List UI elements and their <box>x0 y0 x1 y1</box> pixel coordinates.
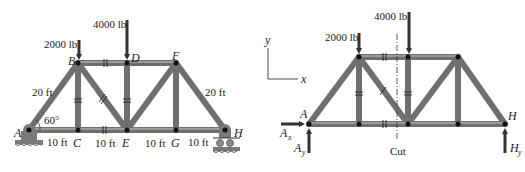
load-label-D: 4000 lb <box>93 18 127 30</box>
joint-label-C: C <box>73 136 82 150</box>
joint-label-D: D <box>130 51 140 65</box>
angle-label: 60° <box>44 114 59 126</box>
dim-GH: 10 ft <box>188 136 208 148</box>
coordinate-axes: y x <box>264 33 307 86</box>
load-label-B-fbd: 2000 lb <box>325 31 359 43</box>
member-EF <box>127 63 176 130</box>
dim-EG: 10 ft <box>145 137 165 149</box>
svg-text:A: A <box>293 141 302 155</box>
svg-text:A: A <box>279 126 288 140</box>
svg-text:y: y <box>301 148 306 157</box>
left-truss-figure: 2000 lb 4000 lb A B C D E F G H 20 ft 20… <box>13 18 244 153</box>
reaction-label-Ay: A y <box>293 141 306 157</box>
right-truss-members <box>309 56 505 124</box>
member-BE <box>78 63 127 130</box>
joint-label-H-fbd: H <box>507 109 518 123</box>
joint-label-B: B <box>68 54 76 68</box>
truss-diagram: 2000 lb 4000 lb A B C D E F G H 20 ft 20… <box>0 0 525 172</box>
joint-label-F: F <box>171 49 180 63</box>
reaction-label-Hy: H y <box>509 141 522 157</box>
dim-AC: 10 ft <box>47 136 67 148</box>
dim-AB: 20 ft <box>32 86 52 98</box>
joint-label-G: G <box>171 136 180 150</box>
load-label-B: 2000 lb <box>44 38 78 50</box>
load-label-D-fbd: 4000 lb <box>374 10 408 22</box>
joint-label-H: H <box>233 126 244 140</box>
dim-CE: 10 ft <box>95 137 115 149</box>
joint-label-E: E <box>121 136 130 150</box>
joint-label-A: A <box>13 126 22 140</box>
right-truss-figure: y x <box>264 10 522 157</box>
reaction-label-Ax: A x <box>279 126 292 142</box>
joint-label-A-fbd: A <box>299 107 308 121</box>
svg-text:x: x <box>287 133 292 142</box>
cut-label: Cut <box>390 145 406 157</box>
axis-y-label: y <box>264 33 271 47</box>
axis-x-label: x <box>300 72 307 86</box>
svg-text:y: y <box>517 148 522 157</box>
dim-FH: 20 ft <box>205 86 225 98</box>
